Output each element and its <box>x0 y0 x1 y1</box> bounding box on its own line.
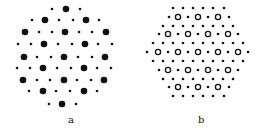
ring <box>175 14 180 19</box>
small-dot <box>172 7 175 10</box>
ring <box>225 67 230 72</box>
small-dot <box>31 19 34 22</box>
small-dot <box>77 56 80 59</box>
small-dot <box>91 31 94 34</box>
small-dot <box>217 69 220 72</box>
small-dot <box>152 42 155 45</box>
small-dot <box>71 43 74 46</box>
small-dot <box>36 56 39 59</box>
large-dot <box>102 54 109 61</box>
small-dot <box>162 25 165 28</box>
small-dot <box>79 8 82 11</box>
small-dot <box>202 78 205 81</box>
small-dot <box>222 42 225 45</box>
ring <box>195 14 200 19</box>
small-dot <box>182 78 185 81</box>
small-dot <box>162 78 165 81</box>
small-dot <box>167 51 170 54</box>
small-dot <box>78 31 81 34</box>
small-dot <box>192 95 195 98</box>
small-dot <box>58 19 61 22</box>
large-dot <box>20 77 27 84</box>
small-dot <box>56 67 59 70</box>
small-dot <box>70 67 73 70</box>
small-dot <box>55 90 58 93</box>
ring <box>215 84 220 89</box>
small-dot <box>217 33 220 36</box>
large-dot <box>81 88 88 95</box>
small-dot <box>187 51 190 54</box>
large-dot <box>61 77 68 84</box>
small-dot <box>222 78 225 81</box>
small-dot <box>16 67 19 70</box>
small-dot <box>207 51 210 54</box>
small-dot <box>17 43 20 46</box>
small-dot <box>152 60 155 63</box>
panel-b <box>146 7 250 98</box>
small-dot <box>202 95 205 98</box>
small-dot <box>223 7 226 10</box>
large-dot <box>81 65 88 72</box>
ring <box>165 67 170 72</box>
panel-b-label: b <box>198 114 204 125</box>
panel-a <box>16 6 114 108</box>
small-dot <box>212 25 215 28</box>
large-dot <box>61 54 68 61</box>
small-dot <box>91 56 94 59</box>
small-dot <box>172 60 175 63</box>
small-dot <box>90 79 93 82</box>
small-dot <box>172 42 175 45</box>
small-dot <box>222 60 225 63</box>
small-dot <box>228 16 231 19</box>
small-dot <box>232 25 235 28</box>
small-dot <box>28 90 31 93</box>
large-dot <box>22 29 29 36</box>
small-dot <box>182 7 185 10</box>
large-dot <box>40 65 47 72</box>
small-dot <box>98 19 101 22</box>
ring <box>195 84 200 89</box>
small-dot <box>110 67 113 70</box>
small-dot <box>192 60 195 63</box>
small-dot <box>38 31 41 34</box>
small-dot <box>51 8 54 11</box>
ring <box>155 49 160 54</box>
small-dot <box>177 69 180 72</box>
ring <box>225 31 230 36</box>
small-dot <box>223 95 226 98</box>
small-dot <box>182 60 185 63</box>
small-dot <box>202 7 205 10</box>
small-dot <box>187 86 190 89</box>
ring <box>175 84 180 89</box>
small-dot <box>96 67 99 70</box>
small-dot <box>207 86 210 89</box>
small-dot <box>57 43 60 46</box>
ring <box>165 31 170 36</box>
small-dot <box>97 43 100 46</box>
small-dot <box>237 69 240 72</box>
large-dot <box>103 29 110 36</box>
small-dot <box>232 78 235 81</box>
small-dot <box>202 42 205 45</box>
large-dot <box>82 41 89 48</box>
ring <box>215 49 220 54</box>
large-dot <box>42 17 49 24</box>
small-dot <box>48 103 51 106</box>
small-dot <box>182 42 185 45</box>
large-dot <box>62 29 69 36</box>
ring <box>235 49 240 54</box>
small-dot <box>158 33 161 36</box>
small-dot <box>222 25 225 28</box>
ring <box>205 31 210 36</box>
small-dot <box>242 60 245 63</box>
small-dot <box>172 25 175 28</box>
ring <box>185 31 190 36</box>
small-dot <box>212 42 215 45</box>
small-dot <box>36 79 39 82</box>
ring <box>215 14 220 19</box>
large-dot <box>101 77 108 84</box>
small-dot <box>168 16 171 19</box>
small-dot <box>177 33 180 36</box>
small-dot <box>212 7 215 10</box>
small-dot <box>212 95 215 98</box>
